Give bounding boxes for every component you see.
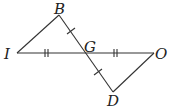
- segment-OD: [113, 53, 154, 92]
- point-label-I: I: [3, 45, 11, 63]
- geometry-diagram: I B G O D: [0, 0, 174, 106]
- point-label-G: G: [84, 38, 96, 56]
- segment-IB: [17, 15, 59, 53]
- point-label-B: B: [53, 0, 65, 18]
- point-label-O: O: [155, 45, 167, 63]
- point-label-D: D: [106, 92, 119, 106]
